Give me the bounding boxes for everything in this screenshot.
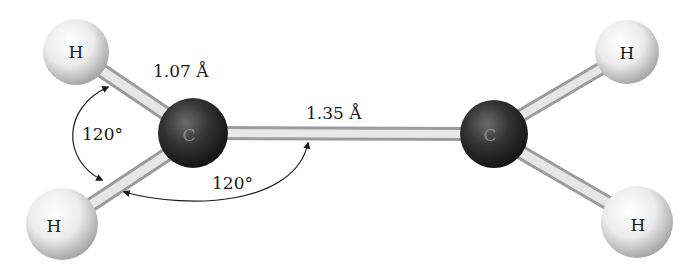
atom-c2-label: C: [483, 125, 496, 145]
atom-h3: H: [595, 20, 659, 84]
atom-c1: C: [158, 98, 228, 168]
atom-h1-label: H: [69, 42, 84, 62]
atom-h4-label: H: [631, 215, 646, 235]
atom-h2: H: [26, 188, 98, 260]
atom-c1-label: C: [182, 125, 195, 145]
atom-h4: H: [601, 186, 673, 258]
ethylene-diagram: H H C C H H 1.07 Å 1.35 Å 120° 120°: [0, 0, 697, 280]
cc-bond-length-label: 1.35 Å: [306, 103, 362, 123]
atom-h1: H: [43, 19, 109, 85]
atom-c2: C: [460, 100, 528, 168]
atom-h3-label: H: [620, 43, 635, 63]
atom-h2-label: H: [47, 216, 62, 236]
hch-angle-label: 120°: [82, 124, 123, 144]
hcc-angle-label: 120°: [212, 173, 253, 193]
ch-bond-length-label: 1.07 Å: [153, 61, 209, 81]
